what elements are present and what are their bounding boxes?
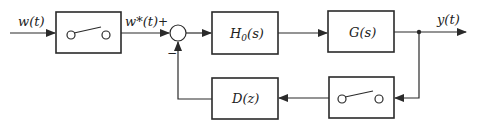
block-diagram: w(t) w*(t) + − H0(s) G(s) y(t) bbox=[0, 0, 479, 127]
minus-sign: − bbox=[167, 46, 177, 60]
feedback-sampler-block bbox=[329, 77, 394, 118]
controller-block: D(z) bbox=[212, 78, 278, 119]
sampled-signal-label: w*(t) bbox=[125, 14, 158, 29]
input-sampler-block bbox=[56, 12, 121, 53]
hold-block: H0(s) bbox=[212, 12, 278, 54]
hold-label: H0(s) bbox=[229, 26, 264, 43]
switch-contact-icon bbox=[375, 95, 383, 103]
input-label: w(t) bbox=[18, 14, 45, 29]
controller-label: D(z) bbox=[231, 91, 259, 106]
switch-contact-icon bbox=[102, 31, 110, 39]
plant-block: G(s) bbox=[328, 11, 394, 52]
switch-contact-icon bbox=[338, 95, 346, 103]
plus-sign: + bbox=[158, 15, 168, 29]
feedback-arrow bbox=[395, 32, 419, 98]
controller-output-arrow bbox=[178, 42, 212, 99]
switch-contact-icon bbox=[67, 31, 75, 39]
plant-label: G(s) bbox=[349, 25, 376, 40]
summing-junction bbox=[170, 25, 186, 41]
output-label: y(t) bbox=[436, 12, 460, 27]
